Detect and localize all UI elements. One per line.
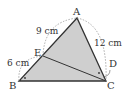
right-angle-mark-d (98, 72, 100, 74)
label-b: B (9, 80, 16, 91)
measure-ae: 9 cm (36, 26, 59, 36)
measure-ac: 12 cm (94, 38, 122, 48)
triangle-abc (19, 18, 106, 81)
label-a: A (72, 6, 81, 17)
diagram-svg: A B C D E 9 cm 6 cm 12 cm (0, 0, 127, 98)
label-c: C (107, 80, 115, 91)
right-angle-mark-b (24, 77, 26, 79)
measure-eb: 6 cm (7, 58, 30, 68)
label-d: D (109, 58, 117, 69)
triangle-diagram: A B C D E 9 cm 6 cm 12 cm (0, 0, 127, 98)
label-e: E (34, 47, 41, 58)
